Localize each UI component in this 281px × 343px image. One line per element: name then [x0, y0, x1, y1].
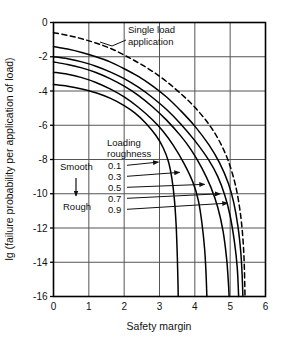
x-tick-label: 4 — [192, 301, 198, 312]
y-tick-label: -16 — [33, 291, 48, 302]
y-tick-label: -14 — [33, 257, 48, 268]
annotation-loading-roughness-line2: roughness — [107, 148, 152, 159]
y-tick-label: -10 — [33, 188, 48, 199]
series-label-0.9: 0.9 — [108, 204, 121, 215]
y-axis-title: lg (failure probability per application … — [3, 57, 15, 260]
y-tick-label: -2 — [39, 51, 48, 62]
x-tick-label: 2 — [121, 301, 127, 312]
annotation-single-load-line2: application — [128, 36, 173, 47]
series-label-0.7: 0.7 — [108, 193, 121, 204]
series-labels: 0.10.30.50.70.9 — [108, 160, 121, 215]
chart-container: 01234560-2-4-6-8-10-12-14-16 Safety marg… — [0, 0, 281, 343]
x-tick-label: 5 — [227, 301, 233, 312]
x-tick-label: 1 — [86, 301, 92, 312]
y-tick-label: 0 — [42, 17, 48, 28]
series-label-0.3: 0.3 — [108, 171, 121, 182]
x-tick-label: 6 — [263, 301, 269, 312]
x-tick-label: 3 — [157, 301, 163, 312]
annotation-rough: Rough — [63, 201, 91, 212]
y-tick-label: -8 — [39, 154, 48, 165]
x-tick-label: 0 — [51, 301, 57, 312]
series-label-0.1: 0.1 — [108, 160, 121, 171]
annotation-smooth: Smooth — [60, 161, 93, 172]
x-axis-title: Safety margin — [127, 320, 192, 332]
y-tick-label: -6 — [39, 120, 48, 131]
chart-svg: 01234560-2-4-6-8-10-12-14-16 Safety marg… — [0, 0, 281, 343]
series-label-0.5: 0.5 — [108, 182, 121, 193]
annotation-loading-roughness-line1: Loading — [107, 137, 141, 148]
y-tick-label: -4 — [39, 86, 48, 97]
y-tick-label: -12 — [33, 223, 48, 234]
annotation-single-load-line1: Single load — [128, 24, 175, 35]
